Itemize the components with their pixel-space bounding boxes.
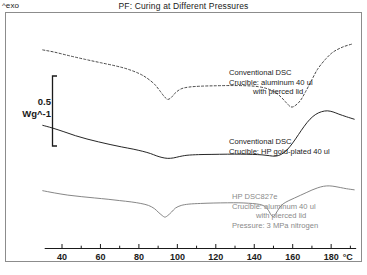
x-axis-tick-label: 180 [324, 252, 339, 262]
x-axis-tick-label: 140 [247, 252, 262, 262]
x-axis-tick-label: 80 [134, 252, 144, 262]
y-scale-label: 0.5 Wg^-1 [13, 96, 51, 119]
x-axis-tick-label: 60 [95, 252, 105, 262]
annotation-line: with pierced lid [232, 211, 318, 221]
annotation-line: HP DSC827e [232, 192, 318, 202]
x-axis-tick-label: 120 [208, 252, 223, 262]
annotation-line: with pierced lid [229, 87, 313, 97]
annotation-line: Conventional DSC [229, 137, 330, 147]
annotation-hp-dsc827e: HP DSC827e Crucible: aluminum 40 ul with… [232, 192, 318, 230]
x-axis-unit-label: °C [343, 252, 353, 262]
annotation-line: Pressure: 3 MPa nitrogen [232, 221, 318, 231]
annotation-line: Conventional DSC [229, 68, 313, 78]
annotation-line: Crucible: aluminum 40 ul [229, 78, 313, 88]
y-scale-bracket [53, 76, 58, 146]
x-axis-tick-label: 40 [57, 252, 67, 262]
dsc-chart-figure: ^exo PF: Curing at Different Pressures 0… [0, 0, 367, 275]
annotation-conventional-dsc-gold: Conventional DSC Crucible: HP gold-plate… [229, 137, 330, 156]
x-axis-tick-label: 160 [285, 252, 300, 262]
annotation-conventional-dsc-aluminum: Conventional DSC Crucible: aluminum 40 u… [229, 68, 313, 97]
annotation-line: Crucible: HP gold-plated 40 ul [229, 147, 330, 157]
x-axis-ticks-group [45, 244, 356, 249]
x-axis-tick-label: 100 [170, 252, 185, 262]
y-scale-unit: Wg^-1 [13, 108, 51, 120]
y-scale-value: 0.5 [13, 96, 51, 108]
annotation-line: Crucible: aluminum 40 ul [232, 202, 318, 212]
y-scale-bracket-path [53, 76, 58, 146]
